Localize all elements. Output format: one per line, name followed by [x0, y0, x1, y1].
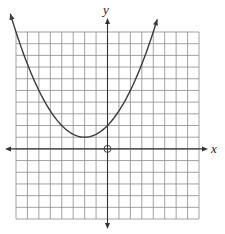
curve-left-arrow-icon [10, 14, 15, 20]
y-axis-down-arrow-icon [105, 223, 110, 229]
x-axis-right-arrow-icon [202, 146, 208, 151]
x-axis-left-arrow-icon [5, 146, 11, 151]
y-axis-up-arrow-icon [105, 18, 110, 24]
axes [5, 18, 208, 229]
curve-right-arrow-icon [153, 19, 158, 26]
coordinate-plane: x y [0, 0, 225, 234]
curve-end-arrows [10, 14, 158, 26]
x-axis-label: x [210, 141, 217, 156]
y-axis-label: y [101, 2, 109, 17]
